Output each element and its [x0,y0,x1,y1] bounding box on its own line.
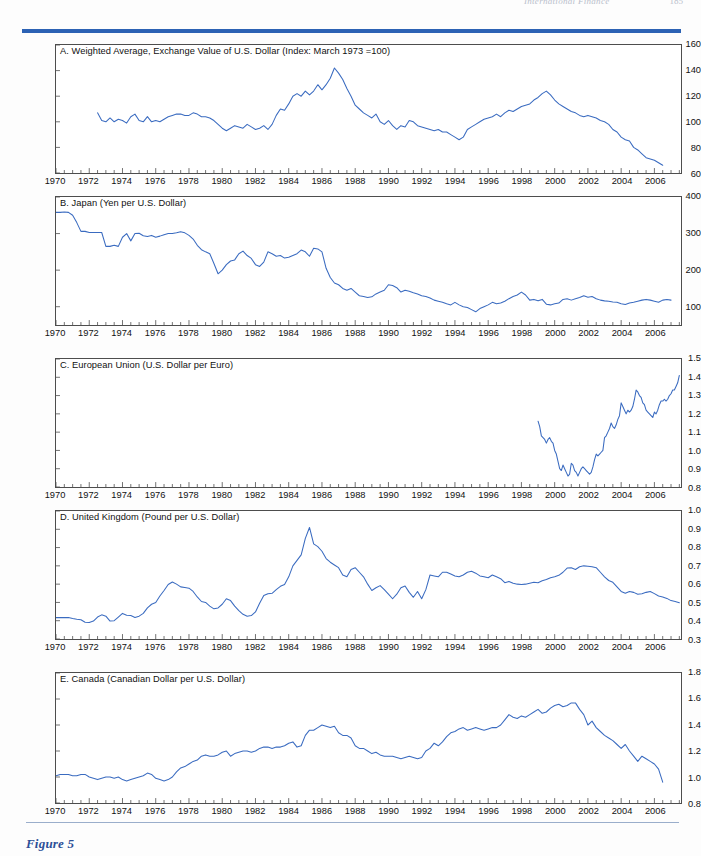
panel-a-xtick-label: 2000 [545,177,566,186]
panel-d-xtick-label: 1974 [111,643,132,652]
panel-b-xtick-label: 1986 [311,329,332,338]
panel-a-ytick-label: 140 [649,66,701,75]
panel-c-ytick-label: 1.0 [649,446,701,455]
panel-c-title: C. European Union (U.S. Dollar per Euro) [60,360,233,370]
panel-b-xtick-label: 2004 [612,329,633,338]
panel-a-ytick-label: 120 [649,92,701,101]
panel-e-xtick-label: 1976 [145,807,166,816]
panel-b-xtick-label: 2002 [578,329,599,338]
bottom-rule-divider [26,822,679,823]
panel-d-xtick-label: 2004 [612,643,633,652]
panel-e-xtick-label: 2004 [612,807,633,816]
panel-e-xtick-label: 2000 [545,807,566,816]
panel-b-xtick-label: 1974 [111,329,132,338]
panel-b-xaxis: 1970197219741976197819801982198419861988… [0,329,701,343]
panel-e-ytick-label: 1.4 [649,720,701,729]
panel-a-xtick-label: 1990 [378,177,399,186]
panel-e-xaxis: 1970197219741976197819801982198419861988… [0,807,701,821]
panel-c-xtick-label: 1980 [211,491,232,500]
panel-d-title: D. United Kingdom (Pound per U.S. Dollar… [60,512,239,522]
panel-e-xtick-label: 1992 [412,807,433,816]
panel-c-xtick-label: 1994 [445,491,466,500]
panel-b-title: B. Japan (Yen per U.S. Dollar) [60,198,186,208]
panel-e-xtick-label: 1972 [78,807,99,816]
panel-d-ytick-label: 0.8 [649,543,701,552]
panel-a-ytick-label: 160 [649,40,701,49]
panel-d-xtick-label: 1994 [445,643,466,652]
panel-e-title: E. Canada (Canadian Dollar per U.S. Doll… [60,674,245,684]
panel-e-plot-frame [55,672,682,804]
panel-a-xtick-label: 1970 [45,177,66,186]
panel-e-xtick-label: 1978 [178,807,199,816]
panel-a-ytick-label: 100 [649,118,701,127]
panel-c: C. European Union (U.S. Dollar per Euro)… [0,358,701,506]
panel-d-ytick-label: 0.9 [649,524,701,533]
panel-b-xtick-label: 1980 [211,329,232,338]
panel-e: E. Canada (Canadian Dollar per U.S. Doll… [0,672,701,822]
panel-a-xtick-label: 1994 [445,177,466,186]
panel-d-xtick-label: 1980 [211,643,232,652]
panel-b-xtick-label: 1998 [512,329,533,338]
panel-d-xtick-label: 1984 [278,643,299,652]
panel-a-xtick-label: 1998 [512,177,533,186]
panel-a-ytick-label: 80 [649,144,701,153]
panel-c-ytick-label: 1.4 [649,372,701,381]
panel-b-xtick-label: 1984 [278,329,299,338]
panel-c-xtick-label: 1984 [278,491,299,500]
panel-b-xtick-label: 1994 [445,329,466,338]
panel-d-xtick-label: 1988 [345,643,366,652]
panel-a-xtick-label: 1976 [145,177,166,186]
panel-d-ytick-label: 0.5 [649,598,701,607]
panel-c-series-svg [56,359,681,487]
panel-c-xtick-label: 1976 [145,491,166,500]
panel-b-ytick-label: 100 [649,303,701,312]
running-head-title: International Finance [524,0,610,6]
panel-d-xtick-label: 2002 [578,643,599,652]
panel-d-plot-frame [55,510,682,640]
panel-e-xtick-label: 1990 [378,807,399,816]
panel-c-xtick-label: 1972 [78,491,99,500]
panel-d-xtick-label: 1978 [178,643,199,652]
panel-a-xtick-label: 1980 [211,177,232,186]
panel-c-xtick-label: 1996 [478,491,499,500]
panel-e-xtick-label: 1996 [478,807,499,816]
running-head: International Finance 185 [0,0,701,12]
panel-a-xtick-label: 2006 [645,177,666,186]
figure-caption: Figure 5 [26,836,74,852]
panel-d-xtick-label: 1976 [145,643,166,652]
panel-e-xtick-label: 1998 [512,807,533,816]
panel-c-xtick-label: 1970 [45,491,66,500]
panel-d-xtick-label: 1996 [478,643,499,652]
panel-a-xtick-label: 1986 [311,177,332,186]
panel-b-xtick-label: 1972 [78,329,99,338]
panel-e-ytick-label: 1.6 [649,694,701,703]
panel-c-xtick-label: 2006 [645,491,666,500]
panel-a-xtick-label: 1972 [78,177,99,186]
panel-d-xtick-label: 1986 [311,643,332,652]
panel-c-xtick-label: 1974 [111,491,132,500]
panel-b-xtick-label: 1982 [245,329,266,338]
panel-e-ytick-label: 1.0 [649,773,701,782]
panel-b-series-svg [56,197,681,325]
panel-e-xtick-label: 1986 [311,807,332,816]
panel-c-plot-frame [55,358,682,488]
panel-a-xtick-label: 2004 [612,177,633,186]
panel-c-xtick-label: 2000 [545,491,566,500]
panel-b-xtick-label: 1976 [145,329,166,338]
panel-d-xtick-label: 1970 [45,643,66,652]
panel-a-xtick-label: 1978 [178,177,199,186]
panel-d-xtick-label: 1972 [78,643,99,652]
panel-c-xtick-label: 2002 [578,491,599,500]
panel-e-xtick-label: 1970 [45,807,66,816]
panel-b-ytick-label: 200 [649,266,701,275]
panel-c-ytick-label: 1.5 [649,354,701,363]
panel-e-series-svg [56,673,681,803]
panel-b-xtick-label: 1978 [178,329,199,338]
panel-c-ytick-label: 1.3 [649,391,701,400]
panel-c-ytick-label: 0.9 [649,465,701,474]
panel-c-xtick-label: 2004 [612,491,633,500]
panel-a-xtick-label: 1974 [111,177,132,186]
panel-b-xtick-label: 2000 [545,329,566,338]
panel-d-ytick-label: 1.0 [649,506,701,515]
top-rule-divider [22,29,681,33]
